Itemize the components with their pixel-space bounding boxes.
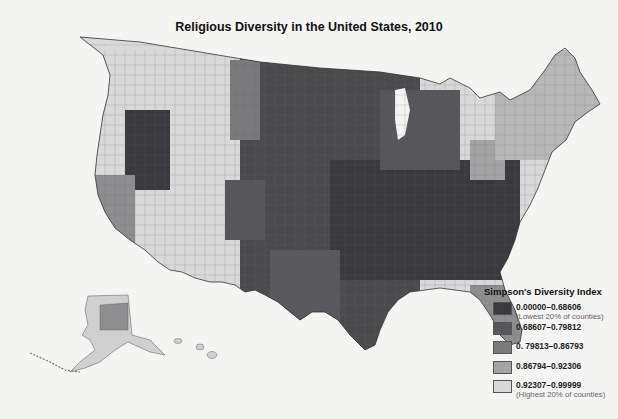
legend-range: 0.00000–0.68606 <box>516 302 604 312</box>
alaska-inset <box>30 295 165 372</box>
legend-swatch <box>493 302 512 315</box>
legend-item: 0.86794–0.92306 <box>493 361 618 381</box>
legend-range: 0.86794–0.92306 <box>516 361 581 371</box>
legend-item: 0. 79813–0.86793 <box>493 341 618 361</box>
legend-item: 0.92307–0.99999(Highest 20% of counties) <box>493 380 618 400</box>
hawaii-inset <box>174 339 217 359</box>
legend-note: (Highest 20% of counties) <box>516 390 605 399</box>
legend-swatch <box>493 341 512 354</box>
legend-item: 0.00000–0.68606(Lowest 20% of counties) <box>493 302 618 322</box>
legend-range: 0. 79813–0.86793 <box>516 341 584 351</box>
legend-range: 0.68607–0.79812 <box>516 322 581 332</box>
legend-title: Simpson's Diversity Index <box>484 286 618 297</box>
legend-range: 0.92307–0.99999 <box>516 380 605 390</box>
legend-item: 0.68607–0.79812 <box>493 322 618 342</box>
map-legend: Simpson's Diversity Index 0.00000–0.6860… <box>484 286 618 400</box>
legend-swatch <box>493 322 512 335</box>
legend-swatch <box>493 361 512 374</box>
legend-note: (Lowest 20% of counties) <box>516 312 604 321</box>
legend-swatch <box>493 380 512 393</box>
